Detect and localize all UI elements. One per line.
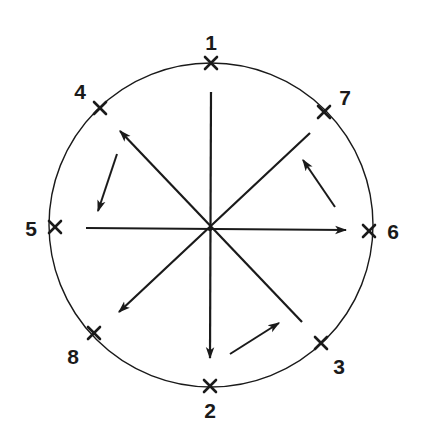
arrow-upper-left (98, 154, 117, 211)
point-label-6: 6 (387, 221, 399, 242)
radial-lines (86, 92, 346, 358)
point-label-8: 8 (67, 346, 79, 367)
x-mark-icon (318, 106, 330, 118)
x-mark-icon (49, 221, 61, 233)
point-label-5: 5 (25, 218, 37, 239)
point-label-2: 2 (204, 400, 216, 421)
point-label-7: 7 (339, 87, 351, 108)
diagram-canvas (0, 0, 421, 446)
point-label-4: 4 (74, 81, 86, 102)
line-5-6 (86, 228, 346, 230)
arrow-upper-right (303, 160, 335, 207)
circle-diagram: 12345678 (0, 0, 421, 446)
x-mark-icon (204, 380, 216, 392)
point-label-3: 3 (333, 356, 345, 377)
x-mark-icon (315, 337, 327, 349)
rotation-arrows (98, 154, 335, 354)
arrow-bottom (230, 323, 279, 354)
center-point (208, 227, 212, 231)
x-mark-icon (94, 102, 106, 114)
point-label-1: 1 (205, 32, 217, 53)
